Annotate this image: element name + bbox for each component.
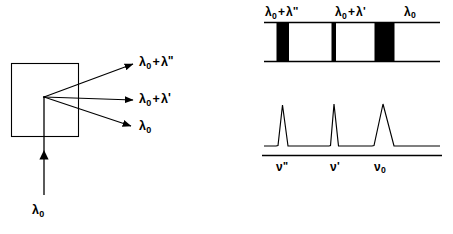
axis-label-nu-double-prime: ν''	[276, 161, 288, 173]
axis-label-nu-prime: ν'	[330, 161, 339, 173]
scattering-geometry-panel: λ0+λ'' λ0+λ' λ0 λ0	[0, 0, 226, 234]
scattered-beam-lower	[44, 97, 131, 126]
shift-lambda-symbol: λ	[356, 5, 363, 19]
spectral-band-lambda0-plus-double-prime	[277, 23, 290, 62]
scattered-beam-upper-label: λ0+λ''	[139, 56, 173, 71]
shift-prime-marks: ''	[293, 5, 298, 17]
nu-prime-marks: '	[337, 160, 339, 172]
scattered-beam-upper	[44, 64, 133, 97]
axis-label-nu-zero: ν0	[374, 161, 386, 175]
lambda-subscript: 0	[411, 10, 416, 20]
incident-beam-arrowhead	[39, 150, 48, 160]
scattered-beam-middle	[44, 97, 133, 100]
shift-lambda-symbol: λ	[161, 92, 168, 106]
plate-label-lambda0: λ0	[404, 6, 416, 20]
figure-canvas: λ0+λ'' λ0+λ' λ0 λ0	[0, 0, 453, 234]
shift-prime-marks: '	[363, 5, 365, 17]
scattered-beam-lower-label: λ0	[139, 120, 151, 135]
densitometer-trace	[264, 104, 440, 146]
scattering-geometry-svg	[0, 0, 226, 234]
plate-label-lambda0-plus-double-prime: λ0+λ''	[265, 6, 298, 20]
nu-symbol: ν	[276, 160, 283, 174]
nu-prime-marks: ''	[283, 160, 288, 172]
plus-symbol: +	[347, 5, 356, 19]
shift-prime-marks: ''	[168, 54, 173, 68]
shift-lambda-symbol: λ	[286, 5, 293, 19]
spectrum-panel: λ0+λ'' λ0+λ' λ0 ν'' ν' ν0	[226, 0, 453, 234]
lambda-symbol: λ	[265, 5, 272, 19]
nu-subscript: 0	[381, 165, 386, 175]
shift-prime-marks: '	[168, 91, 171, 105]
lambda-symbol: λ	[404, 5, 411, 19]
lambda-subscript: 0	[39, 209, 44, 219]
lambda-symbol: λ	[335, 5, 342, 19]
nu-symbol: ν	[330, 160, 337, 174]
lambda-subscript: 0	[146, 125, 151, 135]
spectral-band-lambda0-plus-prime	[332, 23, 337, 62]
nu-symbol: ν	[374, 160, 381, 174]
shift-lambda-symbol: λ	[161, 55, 168, 69]
plus-symbol: +	[277, 5, 286, 19]
plate-label-lambda0-plus-prime: λ0+λ'	[335, 6, 365, 20]
spectral-band-lambda0	[375, 23, 395, 62]
scattered-beam-middle-label: λ0+λ'	[139, 93, 171, 108]
plus-symbol: +	[151, 55, 161, 69]
incident-beam-label: λ0	[32, 204, 44, 219]
spectrum-svg	[226, 0, 453, 234]
sample-box	[12, 64, 79, 137]
plus-symbol: +	[151, 92, 161, 106]
